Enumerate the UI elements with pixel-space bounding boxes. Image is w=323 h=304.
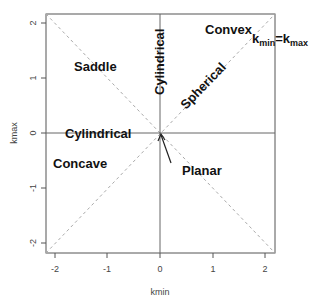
region-label-cylindrical-vertical: Cylindrical (152, 29, 167, 95)
y-tick-label: -2 (28, 239, 38, 247)
x-tick-label: -1 (103, 264, 111, 274)
y-axis: 2 1 0 -1 -2 kmax (9, 20, 46, 247)
region-label-spherical: Spherical (177, 60, 228, 113)
region-label-concave: Concave (53, 156, 107, 171)
planar-arrow (161, 135, 171, 163)
y-tick-label: 2 (28, 20, 38, 25)
y-tick-label: 0 (28, 130, 38, 135)
x-tick-label: 0 (157, 264, 162, 274)
kmin-eq-kmax-annotation: kmin=kmax (252, 31, 308, 48)
region-label-convex: Convex (205, 22, 253, 37)
region-label-saddle: Saddle (74, 59, 117, 74)
y-tick-label: 1 (28, 75, 38, 80)
y-axis-label: kmax (9, 122, 19, 144)
x-tick-label: 2 (262, 264, 267, 274)
x-tick-label: 1 (210, 264, 215, 274)
x-tick-label: -2 (51, 264, 59, 274)
x-axis-label: kmin (150, 287, 169, 297)
y-tick-label: -1 (28, 184, 38, 192)
x-axis: -2 -1 0 1 2 kmin (51, 253, 268, 297)
region-label-planar: Planar (182, 163, 222, 178)
region-label-cylindrical-horizontal: Cylindrical (65, 126, 131, 141)
curvature-diagram: -2 -1 0 1 2 kmin 2 1 0 -1 -2 kmax Saddle… (0, 0, 323, 304)
